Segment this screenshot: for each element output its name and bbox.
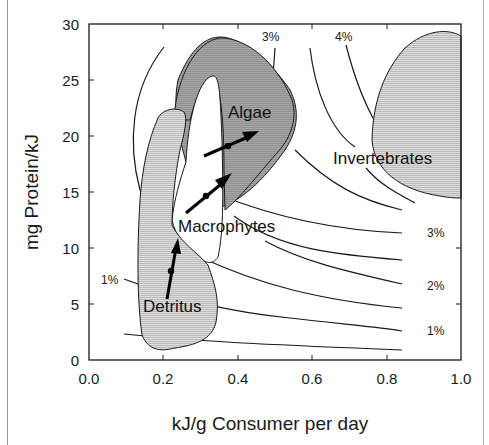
- x-tick-labels: 0.0 0.2 0.4 0.6 0.8 1.0: [79, 370, 472, 387]
- contour-label-3pct: 3%: [427, 226, 445, 240]
- label-macrophytes: Macrophytes: [178, 217, 275, 236]
- contour-2pct: [265, 241, 402, 284]
- contour-3-4pct: [310, 48, 355, 147]
- x-tick-0: 0.0: [79, 370, 100, 387]
- y-tick-labels: 0 5 10 15 20 25 30: [62, 16, 79, 369]
- contour-label-1pct-left: 1%: [101, 273, 119, 287]
- y-tick-0: 0: [71, 352, 79, 369]
- y-tick-4: 20: [62, 128, 79, 145]
- x-tick-2: 0.4: [228, 370, 249, 387]
- y-tick-6: 30: [62, 16, 79, 33]
- y-axis-title: mg Protein/kJ: [21, 134, 42, 250]
- x-axis-title: kJ/g Consumer per day: [172, 413, 369, 434]
- contour-label-3pct-top: 3%: [262, 30, 280, 44]
- y-tick-5: 25: [62, 72, 79, 89]
- contour-label-4pct-top: 4%: [335, 30, 353, 44]
- arrow-detritus-dot: [168, 268, 174, 274]
- region-invertebrates: [372, 32, 461, 198]
- y-tick-2: 10: [62, 240, 79, 257]
- label-algae: Algae: [228, 103, 271, 122]
- label-invertebrates: Invertebrates: [333, 149, 432, 168]
- contour-1-2pct: [200, 257, 402, 308]
- contour-4pct: [346, 45, 377, 125]
- y-tick-1: 5: [71, 296, 79, 313]
- contour-label-1pct: 1%: [427, 324, 445, 338]
- x-tick-3: 0.6: [302, 370, 323, 387]
- contour-label-2pct: 2%: [427, 279, 445, 293]
- x-tick-4: 0.8: [377, 370, 398, 387]
- arrow-algae-dot: [225, 143, 231, 149]
- y-tick-3: 15: [62, 184, 79, 201]
- chart: Algae Macrophytes Detritus Invertebrates…: [0, 0, 489, 445]
- x-tick-5: 1.0: [451, 370, 472, 387]
- arrow-macrophytes-dot: [203, 193, 209, 199]
- x-tick-1: 0.2: [153, 370, 174, 387]
- label-detritus: Detritus: [143, 297, 202, 316]
